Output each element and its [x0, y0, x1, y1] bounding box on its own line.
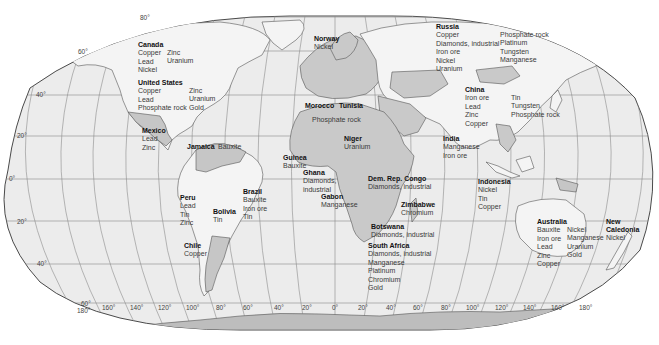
mineral-item: Zinc	[189, 87, 215, 95]
country-name: Ghana	[303, 169, 336, 177]
country-name: China	[465, 86, 489, 94]
mineral-item: Iron ore	[443, 152, 480, 160]
country-label: ZincUraniumGold	[189, 87, 215, 112]
country-label: ZincUranium	[167, 49, 193, 66]
lon-label: 20°	[302, 304, 312, 311]
country-label: Morocco	[305, 102, 334, 110]
lon-label: 100°	[186, 304, 199, 311]
country-name: Russia	[436, 23, 499, 31]
mineral-item: Zinc	[167, 49, 193, 57]
mineral-item: Manganese	[443, 143, 480, 151]
country-name: Morocco	[305, 102, 334, 110]
country-name: South Africa	[368, 242, 431, 250]
country-name: Gabon	[321, 193, 358, 201]
country-label: PeruLeadTinZinc	[180, 194, 196, 228]
mineral-item: Bauxite	[243, 196, 267, 204]
lon-label: 80°	[441, 304, 451, 311]
mineral-item: Nickel	[478, 186, 511, 194]
lon-label: 60°	[243, 304, 253, 311]
mineral-item: Gold	[567, 251, 604, 259]
mineral-item: Platinum	[500, 39, 549, 47]
mineral-item: Tin	[511, 94, 560, 102]
mineral-item: Uranium	[567, 243, 604, 251]
mineral-item: Iron ore	[243, 205, 267, 213]
mineral-item: Zinc	[180, 219, 196, 227]
lon-label: 20°	[358, 304, 368, 311]
country-label: BrazilBauxiteIron oreTin	[243, 188, 267, 222]
country-label: South AfricaDiamonds, industrialManganes…	[368, 242, 431, 292]
mineral-item: Lead	[537, 243, 567, 251]
mineral-item: Zinc	[142, 144, 166, 152]
lat-label: 40°	[37, 260, 47, 267]
country-label: Bauxite	[218, 143, 241, 151]
lon-label: 40°	[386, 304, 396, 311]
lon-label: 140°	[523, 304, 536, 311]
mineral-item: Tin	[478, 195, 511, 203]
country-label: RussiaCopperDiamonds, industrialIron ore…	[436, 23, 499, 73]
lon-label: 160°	[551, 304, 564, 311]
country-label: NorwayNickel	[314, 35, 339, 52]
country-name: Tunisia	[339, 102, 363, 110]
lon-label: 140°	[130, 304, 143, 311]
country-label: ChileCopper	[184, 242, 207, 259]
mineral-item: Phosphate rock	[138, 104, 187, 112]
mineral-item: Gold	[368, 284, 431, 292]
mineral-item: Platinum	[368, 267, 431, 275]
mineral-item: Uranium	[167, 57, 193, 65]
country-name: Botswana	[371, 223, 434, 231]
lat-label: 0°	[9, 175, 15, 182]
mineral-item: Zinc	[465, 111, 489, 119]
mineral-item: Uranium	[436, 65, 499, 73]
country-label: BotswanaDiamonds, industrial	[371, 223, 434, 240]
mineral-item: Diamonds, industrial	[368, 250, 431, 258]
country-label: NigerUranium	[344, 135, 370, 152]
mineral-item: Nickel	[436, 57, 499, 65]
country-label: Dem. Rep. CongoDiamonds, industrial	[368, 175, 431, 192]
mineral-item: Iron ore	[465, 94, 489, 102]
country-label: NickelManganeseUraniumGold	[567, 226, 604, 260]
mineral-item: Manganese	[321, 201, 358, 209]
country-name: Mexico	[142, 127, 166, 135]
country-label: ZimbabweChromium	[401, 201, 435, 218]
mineral-item: Tin	[213, 216, 236, 224]
lon-label: 100°	[466, 304, 479, 311]
mineral-item: Phosphate rock	[511, 111, 560, 119]
mineral-item: Manganese	[500, 56, 549, 64]
country-label: BoliviaTin	[213, 208, 236, 225]
country-label: CaledoniaNickel	[606, 226, 639, 243]
lon-label: 160°	[102, 304, 115, 311]
lon-label: 180°	[579, 304, 592, 311]
mineral-item: Uranium	[344, 143, 370, 151]
country-label: IndiaManganeseIron ore	[443, 135, 480, 160]
mineral-item: Diamonds,	[303, 177, 336, 185]
mineral-item: Diamonds, industrial	[436, 40, 499, 48]
lon-label: 0°	[332, 304, 338, 311]
country-label: ChinaIron oreLeadZincCopper	[465, 86, 489, 128]
mineral-item: Copper	[184, 250, 207, 258]
lat-label: 60°	[78, 48, 88, 55]
mineral-item: Copper	[138, 49, 163, 57]
lat-label: 20°	[17, 132, 27, 139]
mineral-item: Zinc	[537, 252, 567, 260]
mineral-item: Nickel	[138, 66, 163, 74]
lon-label: 120°	[495, 304, 508, 311]
mineral-item: Chromium	[368, 276, 431, 284]
lat-label: 40°	[36, 91, 46, 98]
country-name: Chile	[184, 242, 207, 250]
country-name: Brazil	[243, 188, 267, 196]
country-label: United StatesCopperLeadPhosphate rock	[138, 79, 187, 113]
lon-label: 60°	[413, 304, 423, 311]
mineral-item: Lead	[465, 103, 489, 111]
country-label: IndonesiaNickelTinCopper	[478, 178, 511, 212]
country-label: Phosphate rockPlatinumTungstenManganese	[500, 31, 549, 65]
mineral-item: Lead	[142, 135, 166, 143]
lon-label: 40°	[274, 304, 284, 311]
country-name: Peru	[180, 194, 196, 202]
mineral-item: Copper	[436, 31, 499, 39]
mineral-item: Copper	[537, 260, 567, 268]
mineral-item: Tungsten	[511, 102, 560, 110]
country-name: Jamaica	[187, 143, 215, 151]
mineral-item: Copper	[478, 203, 511, 211]
mineral-item: Chromium	[401, 209, 435, 217]
country-label: AustraliaBauxiteIron oreLeadZincCopper	[537, 218, 567, 268]
